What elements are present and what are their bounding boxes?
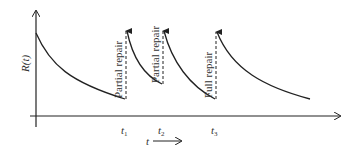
reliability-repair-diagram: Partial repair Partial repair Full repai… — [0, 0, 356, 154]
event-label-3: Full repair — [202, 52, 214, 98]
tick-label-t3: t3 — [211, 124, 218, 138]
y-axis-label: R(t) — [19, 55, 32, 73]
tick-label-t1: t1 — [121, 124, 128, 138]
tick-label-t2: t2 — [158, 124, 165, 138]
x-axis-label: t — [146, 135, 150, 147]
event-label-1: Partial repair — [112, 41, 124, 98]
event-label-2: Partial repair — [149, 26, 161, 83]
reliability-curve-segment-4 — [217, 32, 310, 99]
